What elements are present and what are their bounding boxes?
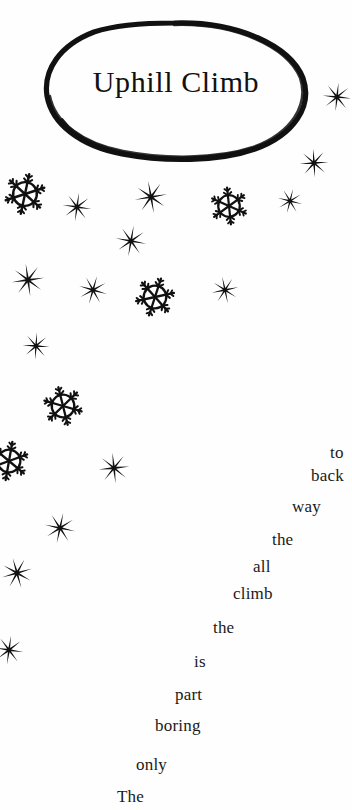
poem-word: to — [330, 443, 344, 463]
poem-word: back — [311, 466, 344, 486]
poem-word: The — [117, 787, 144, 807]
poem-page: Uphill Climb — [0, 0, 352, 810]
poem-word: part — [175, 685, 202, 705]
poem-word: boring — [155, 716, 201, 736]
poem-word: the — [213, 618, 234, 638]
poem-word: the — [272, 530, 293, 550]
poem-word: way — [292, 497, 321, 517]
poem-staircase: tobackwaytheallclimbtheispartboringonlyT… — [0, 0, 352, 810]
poem-word: only — [136, 755, 167, 775]
poem-word: climb — [233, 584, 273, 604]
poem-word: all — [253, 557, 271, 577]
poem-word: is — [194, 652, 206, 672]
